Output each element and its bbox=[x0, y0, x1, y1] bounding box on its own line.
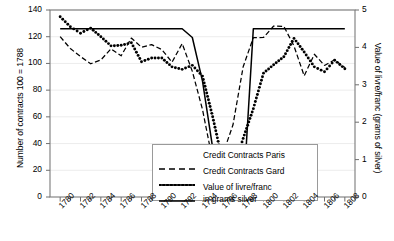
y-axis-right-tick: 1 bbox=[362, 154, 388, 164]
legend-swatch-dashed bbox=[159, 157, 195, 160]
y-axis-right-tick: 0 bbox=[362, 191, 388, 201]
y-axis-left-tick: 60 bbox=[16, 111, 42, 121]
y-axis-left-tick: 140 bbox=[16, 4, 42, 14]
y-axis-left-tick: 120 bbox=[16, 31, 42, 41]
series-dashed bbox=[60, 26, 345, 161]
y-axis-left-tick: 40 bbox=[16, 138, 42, 148]
y-axis-right-tick: 4 bbox=[362, 41, 388, 51]
y-axis-left-tick: 20 bbox=[16, 164, 42, 174]
y-axis-right-tick: 2 bbox=[362, 116, 388, 126]
y-axis-left-tick: 0 bbox=[16, 191, 42, 201]
chart-figure: Number of contracts 100 = 1788 Value of … bbox=[0, 0, 394, 241]
legend-label: Credit Contracts Paris bbox=[203, 150, 285, 160]
legend-swatch-dotted bbox=[159, 173, 195, 176]
y-axis-left-tick: 100 bbox=[16, 57, 42, 67]
legend-label: Credit Contracts Gard bbox=[203, 166, 284, 176]
legend-label: Value of livre/franc bbox=[203, 182, 272, 192]
y-axis-left-tick: 80 bbox=[16, 84, 42, 94]
y-axis-right-tick: 5 bbox=[362, 4, 388, 14]
y-axis-right-tick: 3 bbox=[362, 79, 388, 89]
